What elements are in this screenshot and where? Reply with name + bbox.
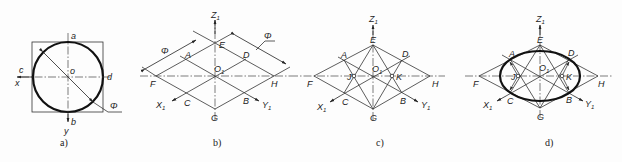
label-H: H — [432, 79, 439, 89]
label-phi: Φ — [110, 101, 118, 111]
label-o: o — [70, 66, 75, 76]
label-o1: O1 — [372, 64, 382, 75]
caption-d: d) — [545, 137, 553, 149]
label-y1: Y1 — [421, 100, 430, 111]
center-J — [352, 74, 356, 78]
label-E: E — [219, 40, 226, 50]
y1-arrow — [250, 96, 259, 101]
label-G: G — [211, 113, 218, 123]
center-J — [516, 74, 520, 78]
y1-arrow — [574, 96, 583, 101]
caption-a: a) — [60, 137, 68, 149]
label-C: C — [184, 98, 191, 108]
figure-isometric-circle-construction: a b c d o x y Φ a) Φ Φ Z1 O1 X1 — [0, 0, 622, 162]
label-A: A — [340, 50, 347, 60]
label-y1: Y1 — [262, 100, 271, 111]
label-B: B — [243, 96, 249, 106]
x1-arrow — [330, 96, 340, 102]
panel-b: Φ Φ Z1 O1 X1 Y1 A B C D E F G H b) — [140, 10, 290, 149]
label-y: y — [63, 126, 69, 136]
label-D: D — [568, 48, 575, 58]
y1-arrow — [408, 96, 418, 102]
extension-line-f — [142, 67, 156, 76]
label-J: J — [346, 72, 352, 82]
label-x1: X1 — [155, 100, 165, 111]
label-F: F — [150, 79, 156, 89]
label-x1: X1 — [482, 100, 492, 111]
x1-arrow — [497, 96, 506, 101]
label-d: d — [107, 72, 113, 82]
caption-c: c) — [376, 137, 384, 149]
label-K: K — [396, 72, 403, 82]
label-z1: Z1 — [535, 14, 545, 25]
rhombus — [314, 45, 430, 109]
caption-b: b) — [213, 137, 221, 149]
center-K — [560, 74, 564, 78]
label-E: E — [537, 35, 544, 45]
label-b: b — [71, 117, 76, 127]
label-F: F — [473, 79, 479, 89]
label-D: D — [243, 50, 250, 60]
label-H: H — [598, 79, 605, 89]
label-G: G — [370, 113, 377, 123]
label-G: G — [537, 112, 544, 122]
x1-arrow — [172, 96, 181, 101]
phi-leader — [256, 41, 265, 50]
panel-c: Z1 O1 X1 Y1 A B C D E F G H J K c) — [290, 14, 445, 149]
label-phi-left: Φ — [161, 46, 169, 56]
center-K — [390, 74, 394, 78]
label-C: C — [507, 96, 514, 106]
label-x1: X1 — [316, 102, 326, 113]
panel-d: Z1 O1 X1 Y1 A B C D E F G H J K d) — [465, 14, 612, 149]
label-H: H — [271, 79, 278, 89]
label-K: K — [566, 72, 573, 82]
label-y1: Y1 — [585, 99, 594, 110]
extension-line-e-left — [193, 31, 215, 43]
leader-line — [93, 102, 108, 112]
label-B: B — [400, 96, 406, 106]
label-E: E — [370, 35, 377, 45]
label-B: B — [566, 95, 572, 105]
label-A: A — [184, 50, 191, 60]
diagram-canvas: a b c d o x y Φ a) Φ Φ Z1 O1 X1 — [0, 0, 622, 162]
label-o1: O1 — [539, 63, 549, 74]
label-F: F — [307, 79, 313, 89]
label-x: x — [14, 78, 20, 88]
label-z1: Z1 — [368, 14, 378, 25]
extension-line-h — [274, 67, 290, 76]
label-c: c — [19, 65, 24, 75]
label-D: D — [402, 49, 409, 59]
label-C: C — [342, 97, 349, 107]
label-a: a — [71, 31, 76, 41]
label-J: J — [510, 72, 516, 82]
label-A: A — [508, 49, 515, 59]
label-z1: Z1 — [210, 10, 220, 21]
panel-a: a b c d o x y Φ a) — [14, 31, 122, 149]
label-o1: O1 — [214, 64, 224, 75]
label-phi-right: Φ — [264, 31, 272, 41]
